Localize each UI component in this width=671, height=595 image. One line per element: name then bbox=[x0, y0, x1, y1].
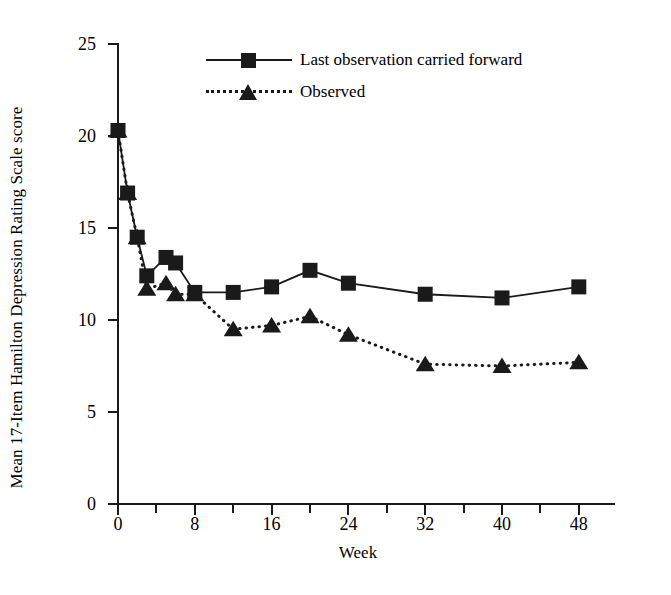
series-line bbox=[118, 130, 579, 366]
x-tick-minor bbox=[309, 505, 311, 513]
data-point-triangle bbox=[493, 358, 512, 374]
y-tick bbox=[108, 319, 117, 321]
data-point-triangle bbox=[569, 354, 588, 370]
x-tick-label: 40 bbox=[472, 515, 532, 533]
legend-item-observed: Observed bbox=[206, 76, 522, 108]
data-point-triangle bbox=[166, 286, 185, 302]
square-marker-icon bbox=[206, 50, 292, 70]
y-tick-label: 0 bbox=[0, 495, 96, 513]
data-point-square bbox=[168, 255, 183, 270]
data-point-triangle bbox=[416, 356, 435, 372]
x-tick-label: 8 bbox=[165, 515, 225, 533]
y-tick bbox=[108, 135, 117, 137]
data-point-square bbox=[264, 279, 279, 294]
data-point-square bbox=[571, 279, 586, 294]
x-tick-label: 0 bbox=[88, 515, 148, 533]
x-tick-minor bbox=[463, 505, 465, 513]
x-tick-label: 32 bbox=[395, 515, 455, 533]
data-point-square bbox=[120, 186, 135, 201]
y-tick-label: 10 bbox=[0, 311, 96, 329]
y-tick-label: 5 bbox=[0, 403, 96, 421]
data-point-triangle bbox=[185, 286, 204, 302]
data-point-square bbox=[159, 250, 174, 265]
y-tick bbox=[108, 227, 117, 229]
chart-legend: Last observation carried forward Observe… bbox=[206, 44, 522, 108]
data-point-square bbox=[418, 287, 433, 302]
x-tick-label: 16 bbox=[242, 515, 302, 533]
legend-item-locf: Last observation carried forward bbox=[206, 44, 522, 76]
x-tick-minor bbox=[539, 505, 541, 513]
data-point-square bbox=[495, 290, 510, 305]
x-tick-minor bbox=[386, 505, 388, 513]
x-axis-title: Week bbox=[118, 543, 598, 563]
y-tick bbox=[108, 43, 117, 45]
data-point-triangle bbox=[128, 229, 147, 245]
series-observed bbox=[109, 122, 589, 373]
data-point-square bbox=[139, 268, 154, 283]
data-point-square bbox=[130, 230, 145, 245]
data-point-square bbox=[341, 276, 356, 291]
data-point-square bbox=[187, 285, 202, 300]
y-tick-label: 15 bbox=[0, 219, 96, 237]
y-tick bbox=[108, 503, 117, 505]
data-point-square bbox=[226, 285, 241, 300]
chart-figure: Mean 17-Item Hamilton Depression Rating … bbox=[0, 0, 671, 595]
y-tick-label: 20 bbox=[0, 127, 96, 145]
x-tick-minor bbox=[155, 505, 157, 513]
y-tick-label: 25 bbox=[0, 35, 96, 53]
data-point-triangle bbox=[262, 317, 281, 333]
triangle-marker-icon bbox=[206, 82, 292, 102]
data-point-triangle bbox=[224, 321, 243, 337]
y-axis-line bbox=[117, 43, 119, 505]
data-point-triangle bbox=[339, 326, 358, 342]
legend-label-observed: Observed bbox=[300, 82, 365, 102]
series-line bbox=[118, 130, 579, 297]
legend-label-locf: Last observation carried forward bbox=[300, 50, 522, 70]
y-tick bbox=[108, 411, 117, 413]
data-point-triangle bbox=[157, 275, 176, 291]
x-tick-label: 48 bbox=[549, 515, 609, 533]
data-point-triangle bbox=[137, 280, 156, 296]
data-point-square bbox=[303, 263, 318, 278]
x-tick-minor bbox=[232, 505, 234, 513]
series-locf bbox=[111, 123, 587, 305]
data-point-triangle bbox=[301, 308, 320, 324]
data-point-triangle bbox=[118, 185, 137, 201]
x-tick-label: 24 bbox=[318, 515, 378, 533]
